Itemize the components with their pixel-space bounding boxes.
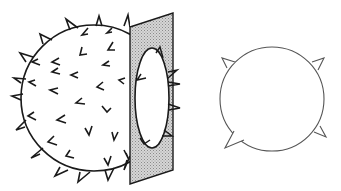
plate [130, 13, 180, 184]
sphere-through-plate-diagram [0, 0, 341, 191]
plate-hole [135, 48, 169, 148]
cross-section-circle [220, 47, 326, 151]
